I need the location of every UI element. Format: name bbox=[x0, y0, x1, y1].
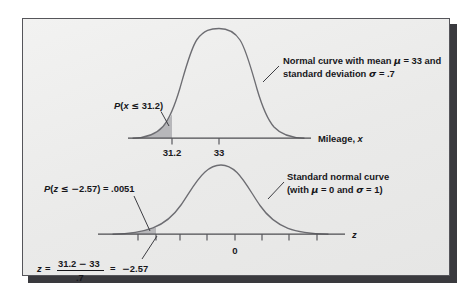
bottom-probability-label: P(z ≤ −2.57) = .0051 bbox=[44, 183, 135, 194]
z-formula-equals2: = bbox=[110, 263, 116, 274]
top-axis-tick-label-31-2: 31.2 bbox=[163, 147, 182, 158]
top-curve-path bbox=[133, 29, 304, 139]
z-formula-leader bbox=[142, 236, 157, 259]
bottom-axis-label: z bbox=[351, 229, 357, 240]
bottom-curve-group: 0 z P(z ≤ −2.57) = .0051 Standard normal… bbox=[36, 165, 389, 283]
bottom-probability-leader bbox=[134, 196, 150, 231]
top-axis-label: Mileage, x bbox=[318, 133, 364, 144]
top-curve-group: 31.2 33 Mileage, x P(x ≤ 31.2) Normal cu… bbox=[114, 29, 442, 158]
top-annotation-line2: standard deviation σ = .7 bbox=[283, 68, 395, 79]
bottom-annotation-line1: Standard normal curve bbox=[287, 171, 389, 182]
normal-curve-diagram: 31.2 33 Mileage, x P(x ≤ 31.2) Normal cu… bbox=[0, 0, 474, 306]
z-score-formula: z = 31.2 − 33 .7 = −2.57 bbox=[36, 258, 148, 283]
top-annotation-leader bbox=[263, 66, 279, 82]
figure-root: 31.2 33 Mileage, x P(x ≤ 31.2) Normal cu… bbox=[0, 0, 474, 306]
z-formula-denominator: .7 bbox=[76, 272, 84, 283]
z-formula-equals: = bbox=[45, 263, 51, 274]
top-axis-tick-label-33: 33 bbox=[214, 147, 225, 158]
bottom-axis-tick-label-0: 0 bbox=[232, 245, 237, 256]
z-formula-lhs: z bbox=[36, 263, 42, 274]
z-formula-numerator: 31.2 − 33 bbox=[58, 258, 100, 269]
bottom-annotation-line2: (with μ = 0 and σ = 1) bbox=[287, 184, 383, 195]
z-formula-result: −2.57 bbox=[122, 263, 148, 274]
top-annotation-line1: Normal curve with mean μ = 33 and bbox=[283, 55, 442, 66]
bottom-annotation-leader bbox=[268, 182, 284, 199]
top-probability-label: P(x ≤ 31.2) bbox=[114, 100, 163, 111]
